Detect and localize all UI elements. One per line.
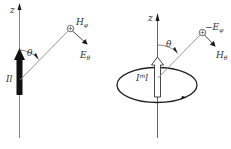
e-theta-label: Eθ: [79, 50, 91, 61]
h-phi-label: Hφ: [75, 17, 89, 29]
theta-arc-arrow-icon: [34, 53, 39, 60]
source-label: Iml: [135, 72, 148, 83]
theta-label: θ: [166, 39, 172, 49]
minus-e-phi-label: −Eφ: [205, 22, 224, 34]
theta-label: θ: [27, 48, 33, 58]
e-theta-vector: [73, 31, 88, 44]
z-axis-label: z: [147, 13, 153, 23]
current-element-arrowhead-icon: [14, 48, 25, 60]
magnetic-dipole-diagram: z Iml θ −Eφ Hθ: [117, 13, 228, 138]
dipole-diagrams: z Il θ Hφ Eθ z Iml: [0, 0, 231, 149]
current-element-bar: [17, 58, 23, 95]
theta-arc-arrow-icon: [173, 47, 178, 54]
z-axis-label: z: [9, 5, 15, 15]
electric-dipole-diagram: z Il θ Hφ Eθ: [5, 3, 91, 138]
z-axis-arrow-icon: [18, 3, 22, 10]
magnetic-current-hollow-arrow-icon: [152, 57, 164, 97]
h-theta-vector: [205, 35, 216, 46]
z-axis-arrow-icon: [156, 13, 160, 21]
radial-line: [158, 35, 201, 79]
h-theta-label: Hθ: [215, 50, 228, 61]
source-label: Il: [5, 74, 13, 84]
